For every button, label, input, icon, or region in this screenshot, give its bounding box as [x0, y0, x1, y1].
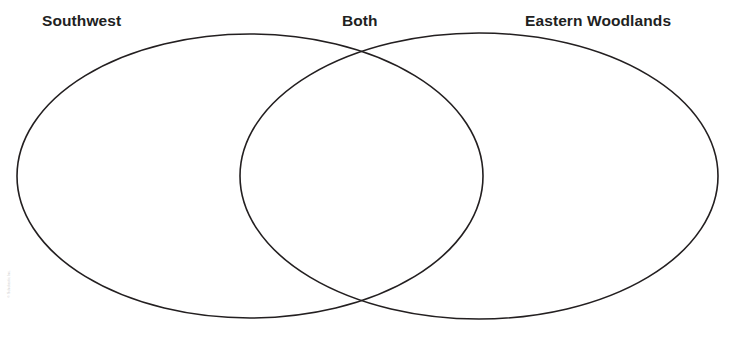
venn-label-center: Both [342, 13, 378, 29]
publisher-credit: © Scholastic Inc. [8, 256, 11, 312]
venn-label-left: Southwest [42, 13, 121, 29]
venn-circle-left[interactable] [17, 34, 483, 318]
venn-label-right: Eastern Woodlands [525, 13, 671, 29]
venn-diagram-worksheet: Southwest Both Eastern Woodlands © Schol… [0, 0, 739, 337]
venn-diagram-canvas [0, 0, 739, 337]
venn-circle-right[interactable] [240, 33, 718, 319]
